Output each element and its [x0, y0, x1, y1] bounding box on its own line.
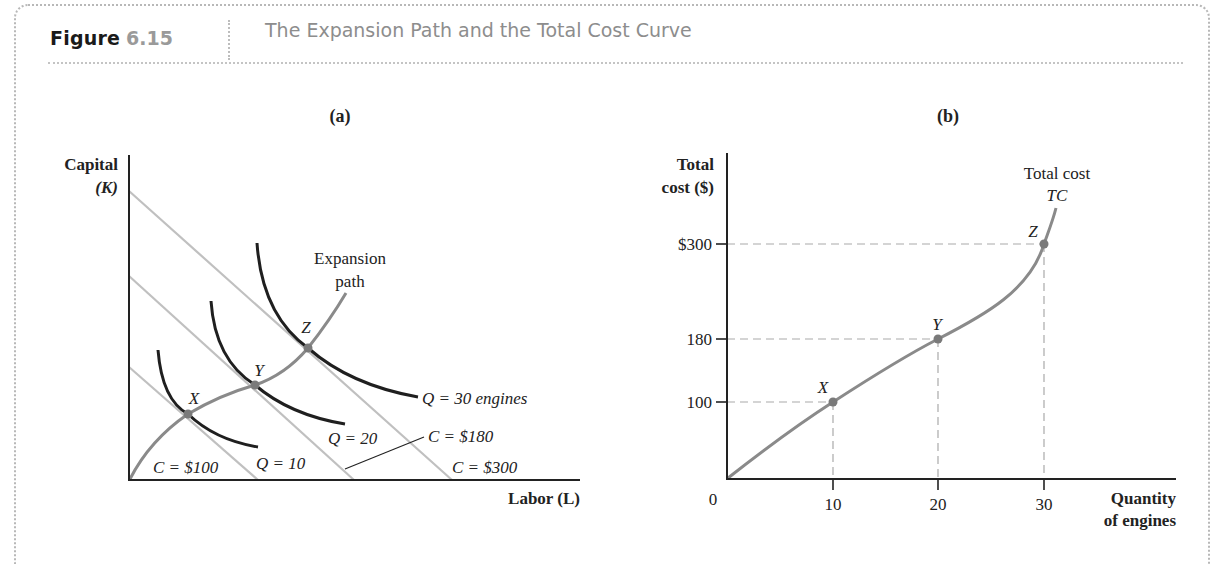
tc-label-1: Total cost: [1024, 164, 1091, 183]
panel-b-y-label-2: cost ($): [662, 178, 714, 197]
point-z-a: [304, 344, 313, 353]
total-cost-curve: [728, 208, 1056, 478]
panel-a-y-label-1: Capital: [64, 155, 118, 174]
point-x-b: [829, 398, 838, 407]
panel-b-x-label-2: of engines: [1104, 511, 1177, 530]
panel-b: (b) Total cost ($) X Y Z Total cost TC $…: [662, 106, 1177, 530]
x-tick-30-label: 30: [1036, 495, 1053, 514]
panel-a-label: (a): [330, 106, 351, 127]
expansion-path-curve: [130, 293, 346, 479]
x-tick-20-label: 20: [930, 495, 947, 514]
isocost-180-label: C = $180: [428, 427, 494, 446]
point-x-b-label: X: [817, 378, 829, 397]
panel-b-y-label-1: Total: [677, 155, 714, 174]
point-z-a-label: Z: [301, 318, 311, 337]
isocost-300-label: C = $300: [452, 458, 518, 477]
isocost-300-line: [129, 191, 452, 480]
x-tick-10-label: 10: [825, 495, 842, 514]
point-x-a-label: X: [188, 389, 200, 408]
point-y-b-label: Y: [932, 315, 943, 334]
panel-b-x-label-1: Quantity: [1111, 489, 1177, 508]
y-tick-100-label: 100: [687, 393, 713, 412]
isocost-100-label: C = $100: [153, 458, 219, 477]
tc-label-2: TC: [1047, 186, 1068, 205]
point-z-b-label: Z: [1028, 222, 1038, 241]
isoquant-q20-label: Q = 20: [328, 429, 378, 448]
expansion-path-label-2: path: [335, 272, 365, 291]
isoquant-q30-label: Q = 30 engines: [422, 389, 528, 408]
panel-a-x-label: Labor (L): [508, 489, 580, 508]
origin-label: 0: [709, 490, 718, 509]
y-tick-300-label: $300: [678, 235, 712, 254]
point-y-b: [934, 335, 943, 344]
panel-a: (a) Capital (K) X Y Z Expansion path Q =…: [64, 106, 580, 508]
panel-a-y-label-2: (K): [95, 178, 118, 197]
point-z-b: [1040, 240, 1049, 249]
y-tick-180-label: 180: [687, 330, 713, 349]
point-y-a: [251, 381, 260, 390]
isoquant-q10-label: Q = 10: [256, 454, 306, 473]
panel-b-label: (b): [937, 106, 959, 127]
point-y-a-label: Y: [254, 361, 265, 380]
expansion-path-label-1: Expansion: [314, 249, 386, 268]
isoquant-q10: [158, 350, 258, 447]
point-x-a: [184, 410, 193, 419]
